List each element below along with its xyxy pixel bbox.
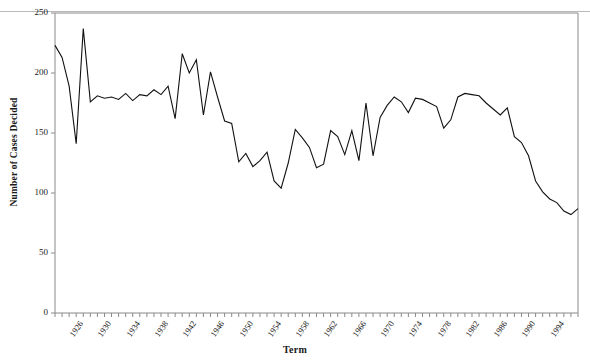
line-chart-plot [0, 0, 590, 362]
data-series-line [55, 29, 578, 215]
chart-figure: Number of Cases Decided Term 25020015010… [0, 0, 590, 362]
